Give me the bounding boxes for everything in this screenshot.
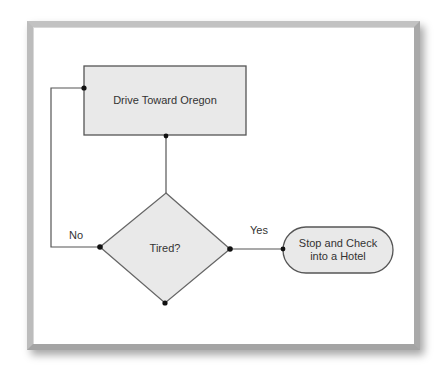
terminal-label-line1: Stop and Check [299, 237, 377, 250]
connector-dot [162, 300, 167, 305]
edge-label-no: No [64, 227, 88, 243]
decision-node-label: Tired? [130, 238, 200, 258]
connector-dot [227, 246, 233, 252]
edge-label-yes: Yes [245, 222, 273, 238]
terminal-node-label: Stop and Check into a Hotel [283, 227, 393, 273]
flowchart-canvas [0, 0, 448, 375]
process-node-label: Drive Toward Oregon [84, 66, 246, 135]
terminal-label-line2: into a Hotel [310, 250, 366, 263]
connector-dot [97, 244, 103, 250]
